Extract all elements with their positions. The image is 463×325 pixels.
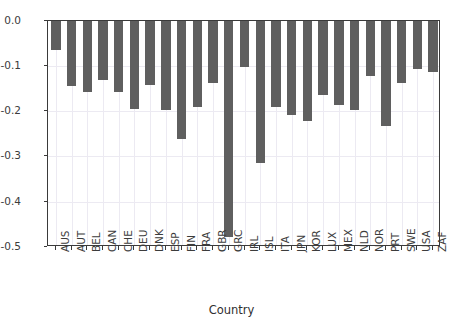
x-tick-label: CHE bbox=[123, 230, 134, 252]
x-tick-label: SWE bbox=[406, 228, 417, 252]
x-tick-mark bbox=[385, 246, 386, 250]
x-tick-mark bbox=[86, 246, 87, 250]
x-tick-label: DEU bbox=[138, 230, 149, 252]
x-tick-label: FRA bbox=[201, 232, 212, 252]
bar bbox=[381, 21, 390, 126]
x-tick-label: USA bbox=[421, 230, 432, 252]
x-tick-label: FIN bbox=[186, 235, 197, 252]
x-tick-mark bbox=[401, 246, 402, 250]
y-tick-mark bbox=[44, 110, 48, 111]
x-tick-mark bbox=[244, 246, 245, 250]
x-tick-mark bbox=[181, 246, 182, 250]
x-tick-label: AUS bbox=[60, 230, 71, 252]
x-tick-label: GBR bbox=[217, 229, 228, 252]
x-tick-mark bbox=[118, 246, 119, 250]
bar bbox=[67, 21, 76, 87]
x-tick-label: ESP bbox=[170, 232, 181, 252]
y-tick-label: -0.3 bbox=[0, 150, 21, 161]
x-tick-mark bbox=[354, 246, 355, 250]
x-tick-label: ISL bbox=[264, 236, 275, 252]
x-tick-label: MEX bbox=[343, 229, 354, 252]
y-tick-label: 0.0 bbox=[0, 14, 21, 25]
x-tick-label: ITA bbox=[280, 236, 291, 252]
bar bbox=[303, 21, 312, 122]
x-tick-label: ZAF bbox=[437, 232, 448, 252]
bar-series bbox=[48, 21, 439, 246]
x-tick-mark bbox=[212, 246, 213, 250]
bar-chart-figure: 0.0-0.1-0.2-0.3-0.4-0.5 AUSAUTBELCANCHED… bbox=[0, 0, 463, 325]
x-tick-mark bbox=[259, 246, 260, 250]
bar bbox=[208, 21, 217, 84]
x-tick-mark bbox=[133, 246, 134, 250]
x-tick-mark bbox=[306, 246, 307, 250]
x-tick-mark bbox=[416, 246, 417, 250]
x-tick-mark bbox=[196, 246, 197, 250]
x-tick-mark bbox=[102, 246, 103, 250]
x-tick-label: PRT bbox=[390, 233, 401, 252]
y-tick-mark bbox=[44, 155, 48, 156]
bar bbox=[318, 21, 327, 96]
bar bbox=[130, 21, 139, 110]
x-tick-mark bbox=[55, 246, 56, 250]
x-tick-label: GRC bbox=[233, 230, 244, 252]
x-tick-mark bbox=[322, 246, 323, 250]
bar bbox=[271, 21, 280, 108]
bar bbox=[98, 21, 107, 81]
y-tick-label: -0.1 bbox=[0, 60, 21, 71]
bar bbox=[256, 21, 265, 164]
bar bbox=[193, 21, 202, 108]
bar bbox=[366, 21, 375, 76]
x-tick-label: AUT bbox=[76, 231, 87, 252]
bar bbox=[397, 21, 406, 84]
x-tick-mark bbox=[71, 246, 72, 250]
y-tick-mark bbox=[44, 20, 48, 21]
x-tick-mark bbox=[291, 246, 292, 250]
y-tick-mark bbox=[44, 65, 48, 66]
x-tick-mark bbox=[165, 246, 166, 250]
y-tick-mark bbox=[44, 246, 48, 247]
y-tick-label: -0.4 bbox=[0, 195, 21, 206]
bar bbox=[224, 21, 233, 238]
bar bbox=[428, 21, 437, 73]
x-tick-mark bbox=[149, 246, 150, 250]
y-tick-mark bbox=[44, 201, 48, 202]
x-tick-label: DNK bbox=[154, 229, 165, 252]
bar bbox=[177, 21, 186, 139]
x-tick-mark bbox=[432, 246, 433, 250]
bar bbox=[240, 21, 249, 68]
x-tick-label: KOR bbox=[311, 230, 322, 252]
x-tick-label: BEL bbox=[91, 232, 102, 252]
plot-area bbox=[47, 20, 440, 247]
x-tick-label: NLD bbox=[359, 230, 370, 252]
bar bbox=[83, 21, 92, 92]
x-tick-mark bbox=[369, 246, 370, 250]
x-tick-label: CAN bbox=[107, 230, 118, 252]
x-tick-mark bbox=[275, 246, 276, 250]
bar bbox=[145, 21, 154, 86]
x-tick-mark bbox=[338, 246, 339, 250]
bar bbox=[413, 21, 422, 70]
y-tick-label: -0.5 bbox=[0, 241, 21, 252]
x-tick-label: NOR bbox=[374, 229, 385, 252]
x-axis-title: Country bbox=[0, 303, 463, 317]
x-tick-mark bbox=[228, 246, 229, 250]
y-tick-label: -0.2 bbox=[0, 105, 21, 116]
x-tick-label: LUX bbox=[327, 232, 338, 252]
bar bbox=[114, 21, 123, 92]
bar bbox=[51, 21, 60, 50]
x-tick-label: JPN bbox=[296, 235, 307, 252]
x-tick-label: IRL bbox=[249, 236, 260, 252]
bar bbox=[161, 21, 170, 111]
bar bbox=[350, 21, 359, 110]
bar bbox=[287, 21, 296, 116]
bar bbox=[334, 21, 343, 105]
